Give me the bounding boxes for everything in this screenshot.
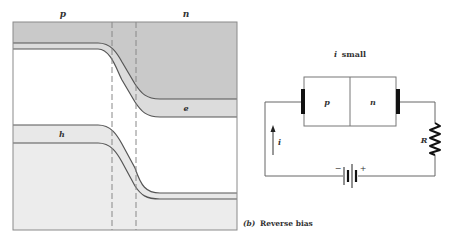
battery-minus-label: − — [335, 164, 342, 173]
circuit-title-text: small — [342, 49, 366, 59]
circuit-diagram: i small p n R − + i — [265, 49, 440, 188]
figure-caption: (b) Reverse bias — [243, 219, 313, 228]
diode-n-label: n — [370, 97, 376, 107]
current-label: i — [278, 137, 281, 147]
circuit-title: i small — [334, 49, 366, 59]
conduction-band-region — [13, 22, 237, 99]
n-region-label: n — [183, 9, 190, 19]
hole-label: h — [59, 129, 65, 139]
diode-p-label: p — [324, 97, 330, 107]
right-electrode — [396, 89, 400, 114]
reverse-bias-figure: p n e h i small p n R − — [0, 0, 451, 243]
resistor-label: R — [420, 135, 428, 145]
p-region-label: p — [60, 9, 67, 19]
current-arrow-icon — [271, 125, 276, 132]
left-electrode — [301, 89, 305, 114]
electron-label: e — [183, 103, 188, 113]
circuit-wire-right — [400, 102, 435, 123]
energy-band-diagram: p n e h — [13, 9, 237, 230]
battery-plus-label: + — [360, 164, 367, 173]
circuit-wire-bottom-right — [358, 155, 435, 176]
caption-index: (b) — [243, 219, 256, 228]
resistor-symbol — [430, 123, 440, 155]
caption-text: Reverse bias — [260, 219, 313, 228]
battery-symbol — [344, 164, 356, 188]
circuit-title-current-symbol: i — [334, 49, 337, 59]
